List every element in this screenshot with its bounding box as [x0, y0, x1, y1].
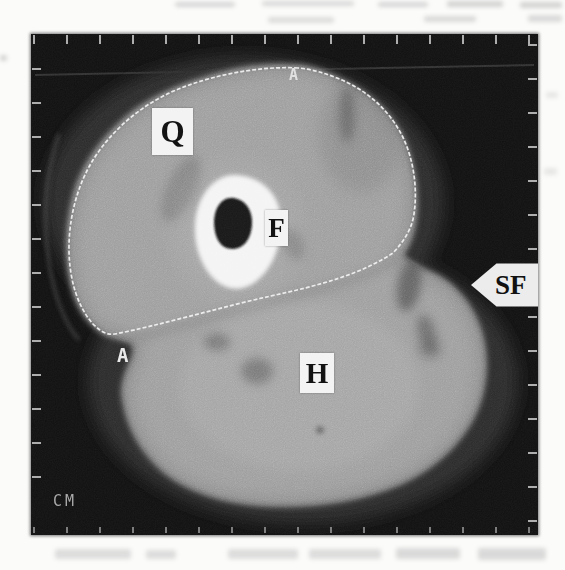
sf-arrow-label: SF — [495, 270, 527, 301]
page-smudge — [0, 55, 7, 61]
page-smudge — [262, 1, 354, 6]
page-smudge — [378, 2, 428, 7]
page-smudge — [175, 2, 235, 7]
page-smudge — [424, 16, 476, 22]
page-smudge — [528, 15, 562, 22]
page-smudge — [520, 2, 562, 8]
page-smudge — [396, 548, 460, 559]
region-label-q: Q — [152, 108, 193, 155]
ct-image-frame: A A Q F H SF CM — [31, 34, 538, 535]
page-smudge — [546, 92, 558, 98]
page-smudge — [268, 17, 334, 23]
page-smudge — [55, 549, 131, 559]
page-smudge — [228, 549, 298, 559]
region-label-f: F — [265, 210, 288, 246]
scale-unit-label: CM — [53, 492, 77, 510]
scanned-page: A A Q F H SF CM — [0, 0, 565, 570]
region-label-h: H — [300, 353, 334, 393]
film-grain — [31, 34, 538, 535]
page-smudge — [544, 168, 557, 175]
page-smudge — [309, 549, 381, 559]
page-smudge — [447, 1, 503, 7]
ct-scan-image: A A — [31, 34, 538, 535]
page-smudge — [146, 550, 176, 559]
page-smudge — [478, 548, 546, 560]
